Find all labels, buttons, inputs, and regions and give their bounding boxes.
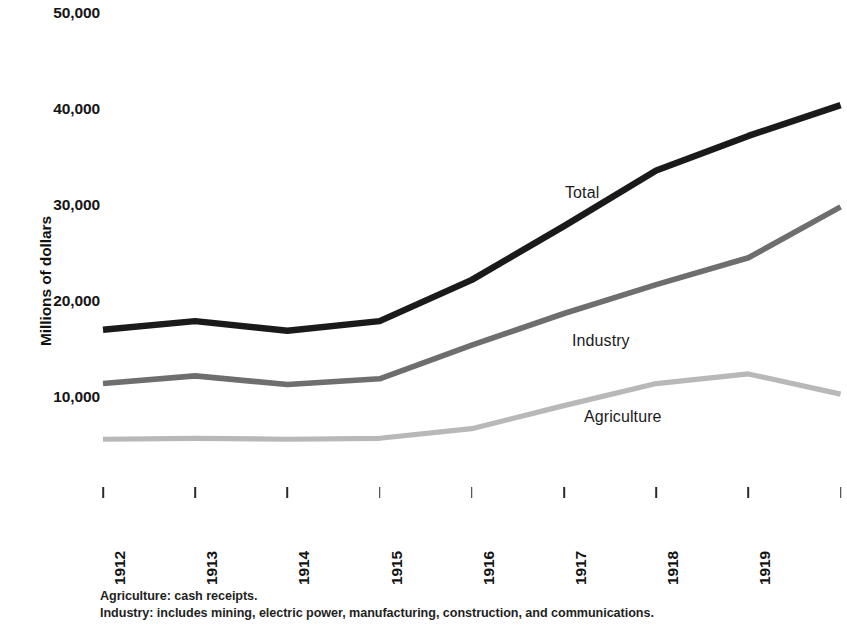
x-tick-mark-1914: [287, 487, 289, 498]
x-tick-mark-1913: [194, 487, 196, 498]
x-tick-mark-1915: [379, 487, 381, 498]
x-tick-label-1912: 1912: [111, 505, 129, 585]
x-tick-mark-1912: [102, 487, 104, 498]
series-label-total: Total: [565, 184, 599, 202]
series-label-industry: Industry: [572, 332, 630, 350]
x-tick-label-1915: 1915: [388, 505, 406, 585]
footnotes-block: Agriculture: cash receipts. Industry: in…: [100, 588, 840, 622]
x-tick-mark-1920: [840, 487, 842, 498]
line-chart-figure: Millions of dollars 10,00020,00030,00040…: [0, 0, 847, 635]
x-tick-label-1916: 1916: [480, 505, 498, 585]
x-tick-mark-1918: [655, 487, 657, 498]
series-line-agriculture: [103, 374, 841, 439]
footnote-agriculture: Agriculture: cash receipts.: [100, 588, 840, 605]
x-tick-label-1917: 1917: [572, 505, 590, 585]
series-line-industry: [103, 207, 841, 385]
x-tick-mark-1917: [563, 487, 565, 498]
x-tick-label-1914: 1914: [295, 505, 313, 585]
series-label-agriculture: Agriculture: [584, 408, 662, 426]
x-tick-label-1918: 1918: [664, 505, 682, 585]
x-tick-label-1913: 1913: [203, 505, 221, 585]
x-tick-label-1919: 1919: [756, 505, 774, 585]
series-line-total: [103, 105, 841, 331]
x-tick-mark-1919: [748, 487, 750, 498]
footnote-industry: Industry: includes mining, electric powe…: [100, 605, 840, 622]
x-tick-mark-1916: [471, 487, 473, 498]
